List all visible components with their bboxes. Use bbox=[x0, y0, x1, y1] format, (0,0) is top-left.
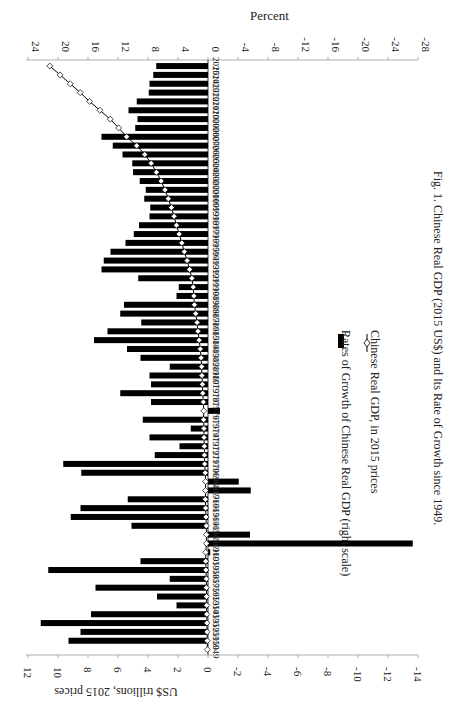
left-axis-tick-label: -14 bbox=[412, 667, 424, 682]
left-axis-tick-label: 0 bbox=[202, 667, 214, 673]
left-axis-tick-label: -4 bbox=[262, 667, 274, 677]
growth-bar bbox=[157, 594, 208, 600]
right-axis-tick-label: 16 bbox=[90, 41, 102, 53]
growth-bar bbox=[144, 196, 208, 202]
right-axis-tick-label: 4 bbox=[180, 47, 192, 53]
growth-bar bbox=[96, 585, 209, 591]
left-axis-tick-label: -8 bbox=[322, 667, 334, 677]
left-axis-title: US$ trillions, 2015 prices bbox=[54, 685, 178, 699]
left-axis-tick-label: -12 bbox=[382, 667, 394, 682]
growth-bar bbox=[111, 249, 209, 255]
growth-bar bbox=[113, 143, 208, 149]
right-axis-tick-label: -16 bbox=[330, 37, 342, 52]
growth-bar bbox=[150, 434, 209, 440]
legend-line-label: Chinese Real GDP, in 2015 prices bbox=[368, 330, 382, 494]
growth-bar bbox=[71, 514, 208, 520]
growth-bar bbox=[126, 240, 209, 246]
growth-bar bbox=[132, 160, 208, 166]
growth-bar bbox=[150, 213, 209, 219]
growth-bar bbox=[149, 90, 208, 96]
growth-bar bbox=[146, 187, 208, 193]
growth-bar bbox=[151, 399, 208, 405]
growth-bar bbox=[208, 540, 413, 546]
growth-bar bbox=[81, 629, 209, 635]
right-axis-tick-label: 8 bbox=[150, 47, 162, 53]
left-axis-tick-label: -10 bbox=[352, 667, 364, 682]
right-axis-tick-label: 0 bbox=[210, 47, 222, 53]
right-axis-tick-label: -24 bbox=[390, 37, 402, 52]
growth-bar bbox=[102, 134, 209, 140]
chart-svg: 24201612840-4-8-12-16-20-24-28121086420-… bbox=[0, 0, 464, 724]
right-axis-tick-label: -12 bbox=[300, 37, 312, 52]
left-axis-tick-label: 6 bbox=[112, 667, 124, 673]
growth-bar bbox=[132, 523, 209, 529]
growth-bar bbox=[133, 169, 208, 175]
growth-bar bbox=[135, 125, 208, 131]
right-axis-tick-label: -20 bbox=[360, 37, 372, 52]
growth-bar bbox=[48, 567, 208, 573]
chart-figure: 24201612840-4-8-12-16-20-24-28121086420-… bbox=[0, 0, 464, 724]
growth-bar bbox=[81, 470, 208, 476]
gdp-point bbox=[204, 647, 210, 653]
figure-caption: Fig. 1. Chinese Real GDP (2015 US$) and … bbox=[431, 171, 445, 525]
growth-bar bbox=[69, 638, 209, 644]
growth-bar bbox=[137, 98, 208, 104]
bars-group bbox=[41, 63, 413, 644]
growth-bar bbox=[127, 346, 208, 352]
growth-bar bbox=[91, 611, 208, 617]
left-axis-tick-label: 12 bbox=[22, 667, 34, 678]
gdp-point bbox=[201, 408, 207, 414]
right-axis-tick-label: 24 bbox=[30, 41, 42, 53]
growth-bar bbox=[120, 390, 208, 396]
left-axis-tick-label: 2 bbox=[172, 667, 184, 673]
growth-bar bbox=[134, 231, 208, 237]
growth-bar bbox=[138, 116, 209, 122]
growth-bar bbox=[153, 72, 208, 78]
right-axis-tick-label: 20 bbox=[60, 41, 72, 53]
growth-bar bbox=[41, 620, 208, 626]
growth-bar bbox=[138, 275, 208, 281]
right-axis-tick-label: -8 bbox=[270, 43, 282, 53]
right-axis-tick-label: -28 bbox=[420, 37, 432, 52]
growth-bar bbox=[141, 558, 209, 564]
growth-bar bbox=[108, 328, 209, 334]
left-axis-tick-label: 8 bbox=[82, 667, 94, 673]
growth-bar bbox=[104, 258, 208, 264]
growth-bar bbox=[156, 63, 208, 69]
left-axis-tick-label: 10 bbox=[52, 667, 64, 679]
left-axis-tick-label: -2 bbox=[232, 667, 244, 676]
growth-bar bbox=[170, 576, 208, 582]
right-axis-tick-label: 12 bbox=[120, 41, 132, 52]
legend-bar-label: Rates of Growth of Chinese Real GDP (rig… bbox=[339, 330, 353, 576]
left-axis-tick-label: -6 bbox=[292, 667, 304, 677]
growth-bar bbox=[63, 461, 208, 467]
year-labels-group: 1949195019511952195319541955195619571958… bbox=[211, 57, 221, 659]
growth-bar bbox=[128, 496, 208, 502]
right-axis-title: Percent bbox=[250, 8, 289, 23]
growth-bar bbox=[81, 505, 209, 511]
right-axis-tick-label: -4 bbox=[240, 43, 252, 53]
growth-bar bbox=[123, 151, 209, 157]
growth-bar bbox=[155, 452, 208, 458]
growth-bar bbox=[140, 178, 208, 184]
growth-bar bbox=[150, 205, 208, 211]
legend: Rates of Growth of Chinese Real GDP (rig… bbox=[338, 330, 382, 576]
growth-bar bbox=[150, 81, 209, 87]
growth-bar bbox=[129, 107, 209, 113]
left-axis-tick-label: 4 bbox=[142, 667, 154, 673]
growth-bar bbox=[143, 417, 208, 423]
growth-bar bbox=[94, 337, 208, 343]
year-label: 2015 bbox=[211, 57, 221, 76]
